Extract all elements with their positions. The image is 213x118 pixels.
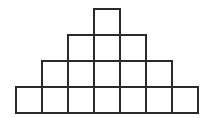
square-cell <box>68 35 94 61</box>
square-cell <box>42 87 68 113</box>
square-cell <box>94 87 120 113</box>
square-cell <box>120 61 146 87</box>
square-cell <box>94 61 120 87</box>
pyramid-row-1 <box>94 9 120 35</box>
square-cell <box>172 87 198 113</box>
square-cell <box>16 87 42 113</box>
square-cell <box>94 9 120 35</box>
pyramid-row-4 <box>16 87 198 113</box>
pyramid-row-3 <box>42 61 172 87</box>
square-cell <box>120 87 146 113</box>
square-pyramid-diagram <box>0 0 213 118</box>
square-cell <box>120 35 146 61</box>
square-cell <box>68 61 94 87</box>
square-cell <box>94 35 120 61</box>
pyramid-row-2 <box>68 35 146 61</box>
square-cell <box>68 87 94 113</box>
square-cell <box>146 87 172 113</box>
square-cell <box>42 61 68 87</box>
square-cell <box>146 61 172 87</box>
